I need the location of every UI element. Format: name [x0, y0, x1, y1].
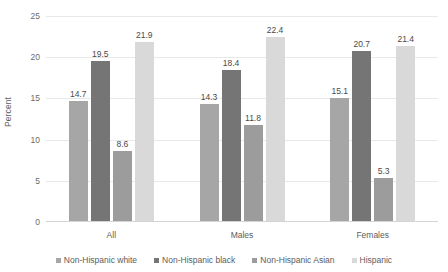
bar-value-label: 14.3 [201, 92, 218, 103]
y-axis-tick-label: 20 [31, 52, 40, 62]
bar-value-label: 15.1 [331, 86, 348, 97]
bar-value-label: 20.7 [353, 39, 370, 50]
bar[interactable] [135, 42, 154, 222]
x-axis-category-label: Males [177, 226, 308, 244]
bar[interactable] [69, 101, 88, 222]
bar[interactable] [244, 125, 263, 222]
y-axis-tick-label: 5 [35, 176, 40, 186]
y-axis-title: Percent [0, 0, 16, 224]
legend-item[interactable]: Non-Hispanic Asian [252, 255, 334, 265]
bar-value-label: 21.4 [397, 34, 414, 45]
bar-value-label: 19.5 [92, 49, 109, 60]
bar-value-label: 21.9 [136, 30, 153, 41]
legend-item[interactable]: Non-Hispanic black [154, 255, 235, 265]
legend-label: Non-Hispanic Asian [260, 255, 334, 265]
bar[interactable] [222, 70, 241, 222]
bars: 15.120.75.321.4 [307, 16, 438, 222]
bar[interactable] [200, 104, 219, 222]
bar[interactable] [374, 178, 393, 222]
y-axis-tick-label: 25 [31, 11, 40, 21]
bar-slot: 20.7 [352, 16, 371, 222]
bar-chart: Percent 0510152025 14.719.58.621.914.318… [0, 0, 448, 272]
plot-area: 14.719.58.621.914.318.411.822.415.120.75… [46, 16, 438, 222]
bar-slot: 14.7 [69, 16, 88, 222]
legend-item[interactable]: Non-Hispanic white [56, 255, 137, 265]
y-axis-tick-label: 0 [35, 217, 40, 227]
bar[interactable] [91, 61, 110, 222]
x-axis-category-labels: AllMalesFemales [46, 226, 438, 244]
bar-slot: 11.8 [244, 16, 263, 222]
legend-label: Hispanic [360, 255, 393, 265]
x-axis-category-label: All [46, 226, 177, 244]
bar-slot: 21.4 [396, 16, 415, 222]
legend-swatch-icon [252, 258, 257, 263]
x-axis-category-label: Females [307, 226, 438, 244]
bar-value-label: 18.4 [223, 58, 240, 69]
bar[interactable] [266, 37, 285, 222]
x-axis-baseline [46, 221, 438, 222]
bar-group: 14.318.411.822.4 [177, 16, 308, 222]
chart-legend: Non-Hispanic whiteNon-Hispanic blackNon-… [0, 252, 448, 268]
bars: 14.719.58.621.9 [46, 16, 177, 222]
legend-swatch-icon [154, 258, 159, 263]
bar-group: 15.120.75.321.4 [307, 16, 438, 222]
bar-value-label: 5.3 [378, 166, 390, 177]
bar-slot: 19.5 [91, 16, 110, 222]
y-axis-tick-label: 15 [31, 93, 40, 103]
bar-slot: 8.6 [113, 16, 132, 222]
bar-groups: 14.719.58.621.914.318.411.822.415.120.75… [46, 16, 438, 222]
bar[interactable] [330, 98, 349, 222]
bar-slot: 22.4 [266, 16, 285, 222]
bar-slot: 5.3 [374, 16, 393, 222]
bars: 14.318.411.822.4 [177, 16, 308, 222]
legend-swatch-icon [352, 258, 357, 263]
bar-slot: 14.3 [200, 16, 219, 222]
bar-slot: 18.4 [222, 16, 241, 222]
bar-value-label: 22.4 [267, 25, 284, 36]
y-axis-tick-labels: 0510152025 [16, 0, 46, 240]
bar-slot: 15.1 [330, 16, 349, 222]
y-axis-tick-label: 10 [31, 135, 40, 145]
bar-value-label: 8.6 [116, 139, 128, 150]
bar-group: 14.719.58.621.9 [46, 16, 177, 222]
bar[interactable] [352, 51, 371, 222]
bar[interactable] [396, 46, 415, 222]
bar-value-label: 14.7 [70, 89, 87, 100]
legend-label: Non-Hispanic black [162, 255, 235, 265]
bar-slot: 21.9 [135, 16, 154, 222]
legend-swatch-icon [56, 258, 61, 263]
legend-item[interactable]: Hispanic [352, 255, 393, 265]
legend-label: Non-Hispanic white [64, 255, 137, 265]
bar[interactable] [113, 151, 132, 222]
y-axis-title-label: Percent [3, 97, 13, 127]
bar-value-label: 11.8 [245, 113, 261, 124]
